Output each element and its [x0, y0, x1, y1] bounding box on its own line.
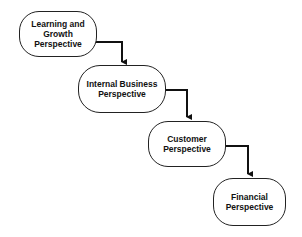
node-learning-growth: Learning and Growth Perspective: [19, 11, 97, 57]
node-financial: Financial Perspective: [213, 178, 286, 226]
arrow-customer-to-financial: [225, 146, 248, 174]
arrow-internal-to-customer: [165, 90, 187, 117]
arrow-learning-to-internal: [96, 42, 122, 62]
node-internal-business: Internal Business Perspective: [78, 65, 166, 113]
node-customer: Customer Perspective: [148, 121, 226, 167]
